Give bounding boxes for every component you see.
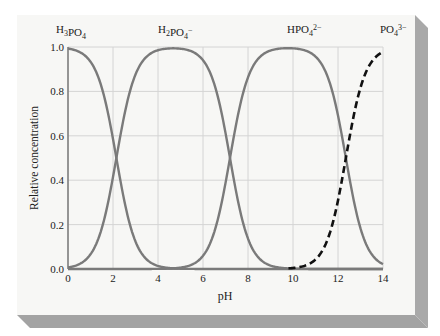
titration-chart: 024681012140.00.20.40.60.81.0 pH Relativ… xyxy=(0,0,440,336)
x-tick-label: 0 xyxy=(65,272,71,284)
y-tick-label: 1.0 xyxy=(50,41,64,53)
x-tick-label: 6 xyxy=(200,272,206,284)
card-shadow-bottom xyxy=(17,315,428,328)
y-tick-label: 0.8 xyxy=(50,85,64,97)
y-tick-label: 0.2 xyxy=(50,219,64,231)
y-tick-label: 0.6 xyxy=(50,130,64,142)
x-axis-label: pH xyxy=(218,289,233,303)
x-tick-label: 14 xyxy=(378,272,390,284)
x-tick-label: 10 xyxy=(288,272,300,284)
card-shadow-right xyxy=(415,15,428,328)
x-tick-label: 12 xyxy=(333,272,344,284)
x-tick-label: 4 xyxy=(155,272,161,284)
x-tick-label: 8 xyxy=(245,272,251,284)
x-tick-label: 2 xyxy=(110,272,116,284)
y-tick-label: 0.4 xyxy=(50,174,64,186)
y-tick-label: 0.0 xyxy=(50,263,64,275)
y-axis-label: Relative concentration xyxy=(28,106,40,210)
